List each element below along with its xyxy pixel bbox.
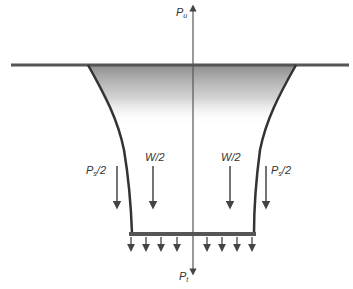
diagram-canvas: [0, 0, 353, 289]
uplift-label: Pu: [176, 6, 187, 19]
soil-shading: [88, 66, 296, 125]
distributed-load-arrows: [131, 237, 252, 248]
weight-left-label: W/2: [145, 151, 165, 163]
side-friction-left-label: Ps/2: [86, 164, 106, 177]
weight-right-label: W/2: [221, 151, 241, 163]
side-friction-right-label: Ps/2: [271, 164, 291, 177]
tip-force-label: Pt: [179, 270, 188, 283]
